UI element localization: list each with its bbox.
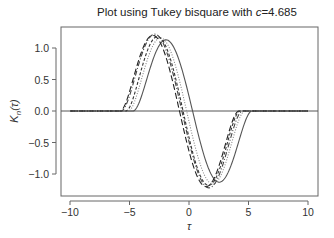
x-axis: −10−50510 [61, 201, 314, 218]
x-tick-label: 10 [302, 206, 314, 218]
y-tick-label: 0.0 [34, 105, 49, 117]
x-tick-label: 5 [246, 206, 252, 218]
y-tick-label: 1.0 [34, 42, 49, 54]
y-axis: 1.00.50.0−0.5−1.0 [28, 42, 56, 180]
x-tick-label: 0 [186, 206, 192, 218]
y-tick-label: −0.5 [28, 137, 49, 149]
x-axis-label: τ [187, 220, 192, 232]
y-tick-label: 0.5 [34, 74, 49, 86]
x-tick-label: −5 [124, 206, 136, 218]
y-axis-label: Kn(τ) [8, 99, 23, 123]
chart-title: Plot using Tukey bisquare with c=4.685 [97, 6, 297, 18]
chart: Plot using Tukey bisquare with c=4.685 1… [0, 0, 334, 238]
y-tick-label: −1.0 [28, 168, 49, 180]
x-tick-label: −10 [61, 206, 79, 218]
